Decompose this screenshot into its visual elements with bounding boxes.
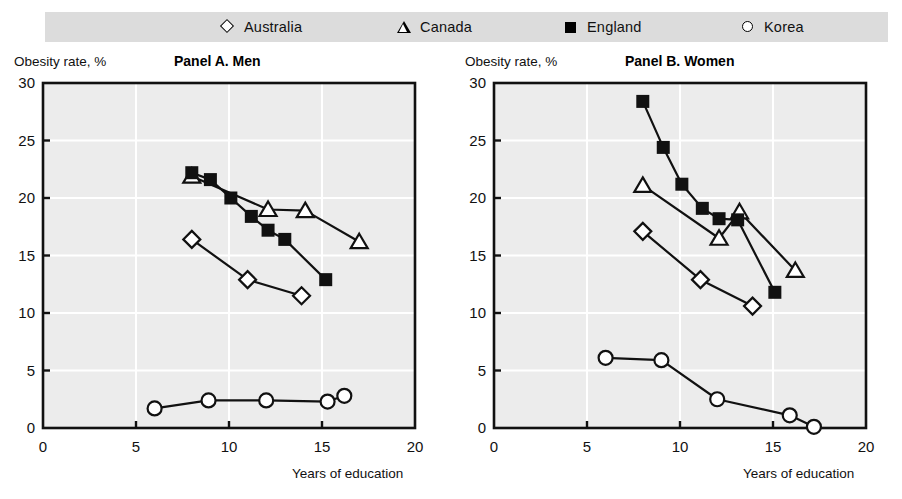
x-tick-label: 0: [23, 438, 63, 455]
x-tick-label: 10: [209, 438, 249, 455]
circle-open-marker: [259, 393, 273, 407]
y-tick-label: 25: [452, 132, 486, 149]
panel-b-women: Obesity rate, % Panel B. Women Years of …: [451, 0, 902, 499]
circle-open-marker: [202, 393, 216, 407]
square-filled-marker: [675, 178, 688, 191]
y-tick-label: 20: [452, 189, 486, 206]
y-tick-label: 30: [452, 74, 486, 91]
y-tick-label: 5: [1, 362, 35, 379]
x-tick-label: 20: [846, 438, 886, 455]
circle-open-marker: [807, 420, 821, 434]
y-tick-label: 10: [452, 304, 486, 321]
y-tick-label: 10: [1, 304, 35, 321]
y-tick-label: 20: [1, 189, 35, 206]
circle-open-marker: [710, 392, 724, 406]
y-tick-label: 0: [1, 419, 35, 436]
circle-open-marker: [321, 395, 335, 409]
square-filled-marker: [245, 210, 258, 223]
square-filled-marker: [224, 192, 237, 205]
x-tick-label: 20: [395, 438, 435, 455]
panel-a-men: Obesity rate, % Panel A. Men Years of ed…: [0, 0, 451, 499]
x-tick-label: 15: [302, 438, 342, 455]
y-tick-label: 25: [1, 132, 35, 149]
square-filled-marker: [278, 233, 291, 246]
square-filled-marker: [319, 273, 332, 286]
x-tick-label: 10: [660, 438, 700, 455]
y-tick-label: 5: [452, 362, 486, 379]
x-tick-label: 5: [116, 438, 156, 455]
panel-b-plot: [451, 0, 902, 460]
circle-open-marker: [337, 389, 351, 403]
square-filled-marker: [204, 173, 217, 186]
circle-open-marker: [783, 408, 797, 422]
x-tick-label: 15: [753, 438, 793, 455]
x-tick-label: 5: [567, 438, 607, 455]
square-filled-marker: [731, 213, 744, 226]
circle-open-marker: [599, 351, 613, 365]
y-tick-label: 15: [1, 247, 35, 264]
square-filled-marker: [185, 166, 198, 179]
circle-open-marker: [654, 353, 668, 367]
square-filled-marker: [262, 224, 275, 237]
y-tick-label: 15: [452, 247, 486, 264]
square-filled-marker: [657, 141, 670, 154]
square-filled-marker: [636, 95, 649, 108]
panel-a-xlabel: Years of education: [292, 466, 403, 481]
y-tick-label: 30: [1, 74, 35, 91]
panel-b-xlabel: Years of education: [743, 466, 854, 481]
y-tick-label: 0: [452, 419, 486, 436]
circle-open-marker: [148, 401, 162, 415]
panel-a-plot: [0, 0, 451, 460]
square-filled-marker: [713, 212, 726, 225]
x-tick-label: 0: [474, 438, 514, 455]
square-filled-marker: [696, 202, 709, 215]
square-filled-marker: [768, 286, 781, 299]
